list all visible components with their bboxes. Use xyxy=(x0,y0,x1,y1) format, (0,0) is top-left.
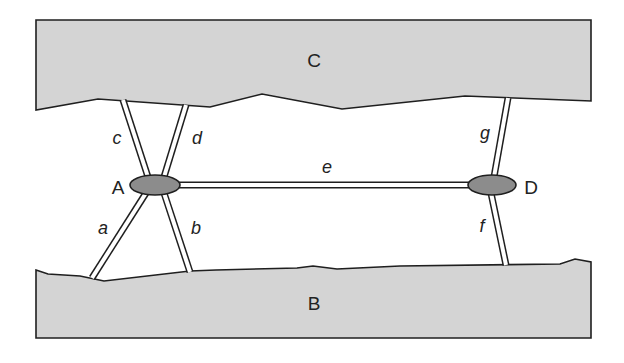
strut-g-label: g xyxy=(480,124,490,142)
strut-f-label: f xyxy=(479,217,484,235)
strut-d xyxy=(164,105,186,177)
strut-e-label: e xyxy=(322,158,332,176)
strut-c-label: c xyxy=(113,129,122,147)
node-d-label: D xyxy=(524,178,538,197)
strut-d-label: d xyxy=(192,129,202,147)
region-c-label: C xyxy=(307,51,321,70)
node-a-label: A xyxy=(112,178,125,197)
strut-c xyxy=(123,100,148,177)
strut-g xyxy=(494,98,508,177)
strut-b-label: b xyxy=(191,219,201,237)
strut-a-label: a xyxy=(98,219,108,237)
strut-b xyxy=(164,193,190,272)
region-b-label: B xyxy=(308,294,321,313)
strut-f xyxy=(491,193,506,265)
node-d xyxy=(468,175,516,195)
node-a xyxy=(130,175,180,195)
